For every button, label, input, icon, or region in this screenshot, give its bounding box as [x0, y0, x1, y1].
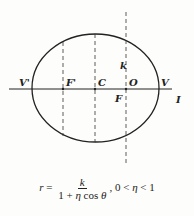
den-cos: cos	[81, 189, 101, 201]
label-k: k	[120, 60, 127, 71]
label-v: V	[161, 77, 170, 88]
label-v-prime: V'	[19, 77, 30, 88]
label-f: F	[114, 93, 123, 104]
label-o: O	[129, 77, 138, 88]
formula-numerator: k	[78, 176, 87, 189]
formula-equals: =	[46, 181, 52, 193]
point-f-prime	[62, 88, 64, 90]
label-f-prime: F'	[65, 77, 76, 88]
condition-left: 0 <	[115, 181, 132, 193]
condition-right: < 1	[138, 181, 155, 193]
formula-denominator: 1 + η cos θ	[56, 189, 108, 201]
den-theta: θ	[101, 189, 106, 201]
formula-fraction: k 1 + η cos θ	[56, 176, 108, 201]
label-c: C	[98, 77, 106, 88]
point-c	[94, 88, 96, 90]
formula-lhs: r	[39, 181, 43, 193]
den-one: 1 +	[58, 189, 75, 201]
label-i: I	[175, 94, 181, 105]
polar-equation: r = k 1 + η cos θ , 0 < η < 1	[0, 176, 194, 201]
point-f	[125, 88, 127, 90]
